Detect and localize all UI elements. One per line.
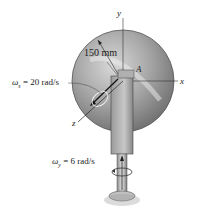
point-a-label: A [136, 64, 142, 74]
y-axis-label: y [117, 8, 121, 18]
omega-s-label: ωs = 20 rad/s [12, 77, 59, 89]
support-arm [111, 76, 133, 154]
x-axis-label: x [180, 76, 184, 86]
radius-label: 150 mm [84, 47, 117, 58]
omega-y-label: ωy = 6 rad/s [52, 156, 95, 168]
z-axis-label: z [72, 118, 76, 128]
disk-diagram [0, 0, 200, 215]
